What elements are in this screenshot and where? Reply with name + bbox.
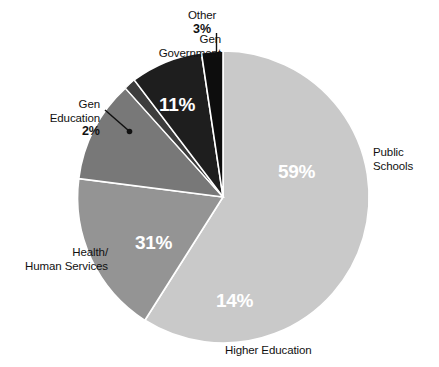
slice-label-gen-government-line2: Government [159, 47, 221, 59]
slice-label-gen-education-line1: Gen [79, 98, 100, 110]
slice-value-gen-government: 11% [159, 94, 195, 116]
slice-value-higher-education: 14% [216, 290, 253, 312]
pie-chart: PublicSchools Higher Education Health/Hu… [0, 0, 439, 367]
slice-label-other: Other3% [188, 9, 216, 36]
slice-value-other: 3% [193, 22, 211, 36]
slice-label-health-line1: Health/ [72, 246, 108, 258]
slice-label-public-schools-line2: Schools [373, 160, 413, 172]
slice-label-health-human-services: Health/Human Services [25, 246, 108, 273]
slice-label-higher-education: Higher Education [225, 344, 312, 358]
slice-value-gen-education: 2% [82, 124, 100, 138]
slice-label-higher-education-text: Higher Education [225, 344, 312, 356]
slice-label-public-schools-line1: Public [373, 146, 404, 158]
slice-label-public-schools: PublicSchools [373, 146, 413, 173]
slice-label-gen-education-line2: Education [50, 112, 100, 124]
slice-label-other-text: Other [188, 9, 216, 21]
slice-label-health-line2: Human Services [25, 260, 108, 272]
slice-label-gen-education: GenEducation2% [50, 98, 100, 139]
slice-value-public-schools: 59% [278, 161, 315, 183]
slice-label-gen-government: GenGovernment [159, 33, 221, 60]
slice-value-health-human-services: 31% [135, 232, 172, 254]
gen-education-leader-dot [127, 129, 133, 135]
